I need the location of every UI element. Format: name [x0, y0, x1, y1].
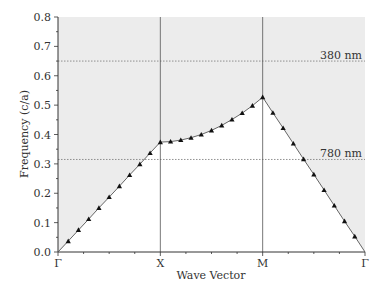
annotation-380nm: 380 nm	[320, 49, 363, 62]
x-tick-label: Γ	[54, 257, 62, 270]
x-tick-label: M	[257, 257, 268, 270]
y-tick-label: 0.3	[34, 158, 52, 171]
annotation-780nm: 780 nm	[320, 147, 363, 160]
x-axis-label: Wave Vector	[176, 269, 246, 282]
band-structure-chart: 0.00.10.20.30.40.50.60.70.8ΓXMΓ 380 nm 7…	[0, 0, 385, 293]
y-tick-label: 0.5	[34, 99, 52, 112]
y-tick-label: 0.6	[34, 70, 52, 83]
light-cone-shading	[58, 17, 365, 252]
x-tick-label: X	[156, 257, 164, 270]
y-axis-label: Frequency (c/a)	[18, 90, 31, 178]
y-tick-label: 0.7	[34, 40, 52, 53]
y-tick-label: 0.0	[34, 246, 52, 259]
shaded-region	[58, 17, 365, 252]
y-tick-label: 0.8	[34, 11, 52, 24]
y-tick-label: 0.2	[34, 187, 52, 200]
x-tick-label: Γ	[361, 257, 369, 270]
y-tick-label: 0.1	[34, 217, 52, 230]
y-tick-label: 0.4	[34, 129, 52, 142]
